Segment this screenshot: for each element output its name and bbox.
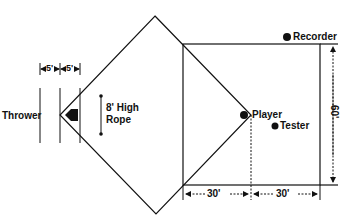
recorder-dot bbox=[283, 33, 291, 41]
tester-label: Tester bbox=[280, 121, 309, 131]
player-label: Player bbox=[252, 110, 282, 120]
player-dot bbox=[240, 111, 248, 119]
dim-30b-label: 30' bbox=[276, 189, 290, 199]
dim-30a-label: 30' bbox=[207, 189, 221, 199]
dim-5a-label: 5' bbox=[46, 64, 53, 73]
tester-dot bbox=[272, 123, 279, 130]
thrower-label: Thrower bbox=[2, 111, 41, 121]
rope-label-line2: Rope bbox=[106, 115, 131, 125]
dim-60-label: 60' bbox=[329, 105, 339, 119]
thrower-marker bbox=[65, 109, 78, 121]
rope-label-line1: 8' High bbox=[106, 103, 139, 113]
dim-5b-label: 5' bbox=[66, 64, 73, 73]
diamond-field bbox=[60, 16, 251, 214]
recorder-label: Recorder bbox=[293, 32, 337, 42]
